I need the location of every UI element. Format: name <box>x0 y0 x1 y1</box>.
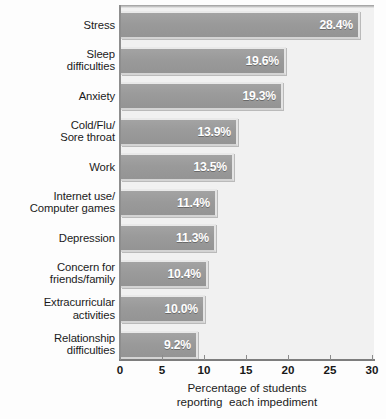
axis-tick-label: 5 <box>159 363 165 376</box>
bar-value-label: 10.4% <box>167 267 201 281</box>
bar: 9.2% <box>121 331 198 359</box>
plot-top-shade <box>119 5 374 8</box>
category-label: Work <box>0 161 115 174</box>
bar-chart: StressSleepdifficultiesAnxietyCold/Flu/S… <box>0 0 386 419</box>
category-label: Extracurricularactivities <box>0 296 115 321</box>
axis-tick <box>204 355 205 360</box>
category-label-line: Concern for <box>0 261 115 274</box>
axis-tick <box>246 355 247 360</box>
x-axis-title-line: reporting each impediment <box>119 395 375 409</box>
axis-tick-label: 10 <box>198 363 211 376</box>
category-label-line: Anxiety <box>0 90 115 103</box>
axis-tick-label: 0 <box>117 363 123 376</box>
bar-value-label: 28.4% <box>319 18 353 32</box>
axis-tick-label: 25 <box>324 363 337 376</box>
bar-value-label: 11.4% <box>177 196 210 210</box>
bar-value-label: 9.2% <box>164 338 191 352</box>
category-label-line: Sore throat <box>0 131 115 144</box>
axis-tick <box>372 355 373 360</box>
x-axis-title-line: Percentage of students <box>119 381 375 395</box>
bar: 10.4% <box>121 260 208 288</box>
category-label: Stress <box>0 19 115 32</box>
axis-tick-label: 30 <box>366 363 379 376</box>
category-label: Internet use/Computer games <box>0 190 115 215</box>
category-label-line: Cold/Flu/ <box>0 119 115 132</box>
axis-tick <box>120 355 121 360</box>
category-label: Anxiety <box>0 90 115 103</box>
bar: 28.4% <box>121 11 360 39</box>
bar-value-label: 11.3% <box>176 231 209 245</box>
category-label-line: Computer games <box>0 202 115 215</box>
category-label-line: Depression <box>0 232 115 245</box>
bar-value-label: 19.6% <box>245 54 279 68</box>
category-label-line: Extracurricular <box>0 296 115 309</box>
bar: 13.5% <box>121 153 234 181</box>
category-label-line: activities <box>0 309 115 322</box>
category-label-line: Stress <box>0 19 115 32</box>
category-label-line: friends/family <box>0 273 115 286</box>
axis-tick-label: 15 <box>240 363 253 376</box>
category-label: Cold/Flu/Sore throat <box>0 119 115 144</box>
bar: 10.0% <box>121 295 205 323</box>
category-label: Sleepdifficulties <box>0 48 115 73</box>
axis-tick <box>162 355 163 360</box>
category-label-line: difficulties <box>0 344 115 357</box>
category-axis-labels: StressSleepdifficultiesAnxietyCold/Flu/S… <box>0 5 115 360</box>
axis-tick <box>330 355 331 360</box>
category-label-line: Relationship <box>0 332 115 345</box>
bar: 11.3% <box>121 224 216 252</box>
axis-tick <box>288 355 289 360</box>
plot-area: 28.4%19.6%19.3%13.9%13.5%11.4%11.3%10.4%… <box>119 5 374 360</box>
category-label-line: Internet use/ <box>0 190 115 203</box>
x-axis-title: Percentage of studentsreporting each imp… <box>119 381 375 408</box>
category-label: Concern forfriends/family <box>0 261 115 286</box>
bar-value-label: 10.0% <box>164 302 198 316</box>
category-label-line: Sleep <box>0 48 115 61</box>
value-axis-bottom-line <box>119 359 375 361</box>
bar: 19.6% <box>121 47 286 75</box>
bar-value-label: 19.3% <box>242 89 276 103</box>
axis-tick-label: 20 <box>282 363 295 376</box>
category-label: Depression <box>0 232 115 245</box>
category-label: Relationshipdifficulties <box>0 332 115 357</box>
category-label-line: difficulties <box>0 60 115 73</box>
bar: 19.3% <box>121 82 283 110</box>
bar-value-label: 13.9% <box>197 125 231 139</box>
bar: 11.4% <box>121 189 217 217</box>
category-label-line: Work <box>0 161 115 174</box>
bar-value-label: 13.5% <box>193 160 227 174</box>
bar: 13.9% <box>121 118 238 146</box>
